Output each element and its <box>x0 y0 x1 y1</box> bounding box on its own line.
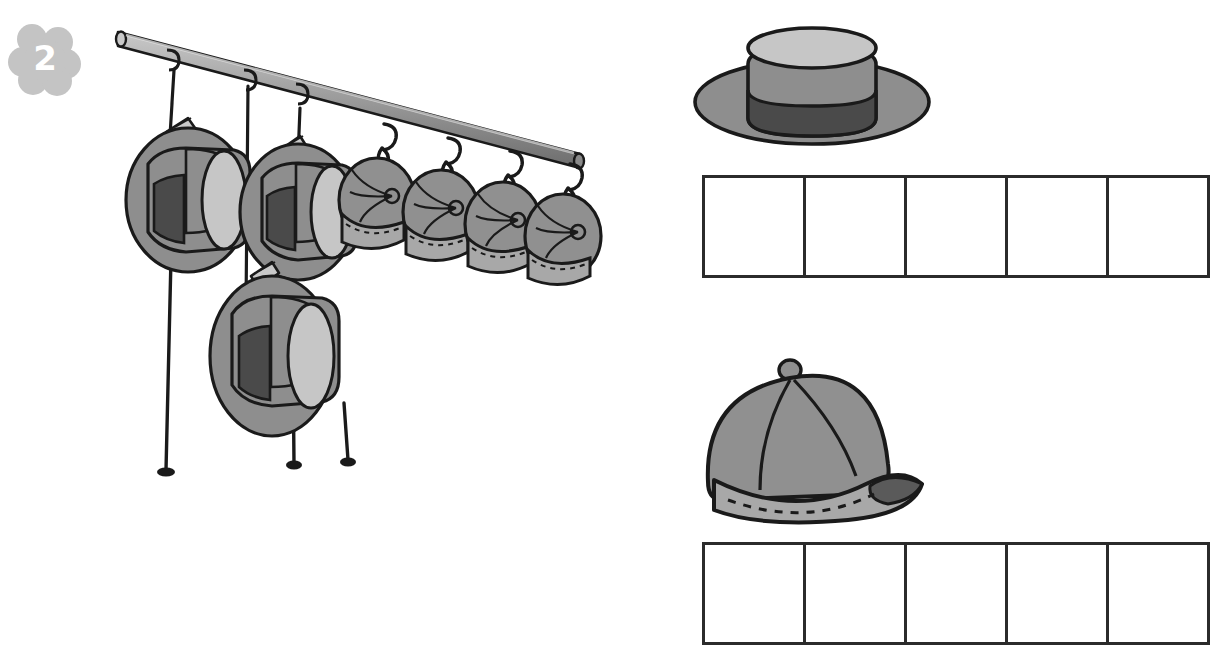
hat-sample-image <box>688 8 938 160</box>
hat-1 <box>126 118 250 272</box>
cap-drawing <box>694 350 944 526</box>
caps-answer-grid[interactable] <box>702 542 1210 645</box>
hat-drawing <box>688 8 938 160</box>
hats-answer-cell-5[interactable] <box>1109 178 1207 275</box>
hat-rack-drawing <box>96 8 606 488</box>
caps-answer-cell-5[interactable] <box>1109 545 1207 642</box>
hats-answer-cell-4[interactable] <box>1008 178 1109 275</box>
hats-answer-cell-2[interactable] <box>806 178 907 275</box>
flower-badge-icon <box>6 18 84 96</box>
cap-1 <box>339 124 415 249</box>
caps-answer-cell-3[interactable] <box>907 545 1008 642</box>
cap-4 <box>525 164 601 285</box>
caps-answer-cell-1[interactable] <box>705 545 806 642</box>
exercise-number-badge: 2 <box>6 18 84 96</box>
hats-answer-cell-3[interactable] <box>907 178 1008 275</box>
string-weights <box>157 458 356 477</box>
hats-answer-cell-1[interactable] <box>705 178 806 275</box>
hat-rack-illustration <box>96 8 606 488</box>
hats-answer-grid[interactable] <box>702 175 1210 278</box>
caps-answer-cell-4[interactable] <box>1008 545 1109 642</box>
hat-3 <box>210 262 339 436</box>
cap-sample-image <box>694 350 944 526</box>
caps-answer-cell-2[interactable] <box>806 545 907 642</box>
